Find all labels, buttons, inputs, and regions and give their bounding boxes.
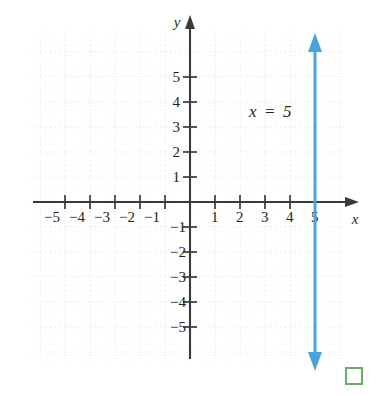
x-tick-label-neg4: −4 [69,209,85,225]
x-tick-label-neg3: −3 [94,209,110,225]
x-tick-label-2: 2 [236,209,244,225]
y-tick-label-neg1: −1 [170,219,186,235]
y-tick-label-neg5: −5 [170,319,186,335]
y-tick-label-3: 3 [173,119,181,135]
y-tick-label-2: 2 [173,144,181,160]
graph-figure: −5 −4 −3 −2 −1 1 2 3 4 5 5 4 3 2 1 −1 −2… [0,0,376,395]
x-axis-label: x [351,211,359,227]
line-arrowhead-down [308,352,322,371]
y-tick-label-neg2: −2 [170,244,186,260]
answer-input-box[interactable] [345,367,363,385]
equation-value: 5 [283,102,292,121]
y-tick-label-4: 4 [173,94,181,110]
grid-background [31,31,345,361]
x-tick-label-neg1: −1 [144,209,160,225]
equation-operator: = [264,102,275,121]
x-tick-label-1: 1 [211,209,219,225]
x-axis-arrowhead [345,197,359,207]
x-tick-label-3: 3 [261,209,269,225]
x-tick-label-neg2: −2 [119,209,135,225]
y-tick-label-neg3: −3 [170,269,186,285]
y-axis-arrowhead [185,15,195,29]
x-tick-label-4: 4 [286,209,294,225]
y-tick-label-1: 1 [173,169,181,185]
x-tick-label-neg5: −5 [44,209,60,225]
equation-variable: x [248,102,257,121]
y-tick-label-5: 5 [173,69,181,85]
y-tick-label-neg4: −4 [170,294,186,310]
equation-annotation: x = 5 [248,102,292,121]
y-axis-label: y [172,14,181,30]
coordinate-plane-plot: −5 −4 −3 −2 −1 1 2 3 4 5 5 4 3 2 1 −1 −2… [0,0,376,395]
